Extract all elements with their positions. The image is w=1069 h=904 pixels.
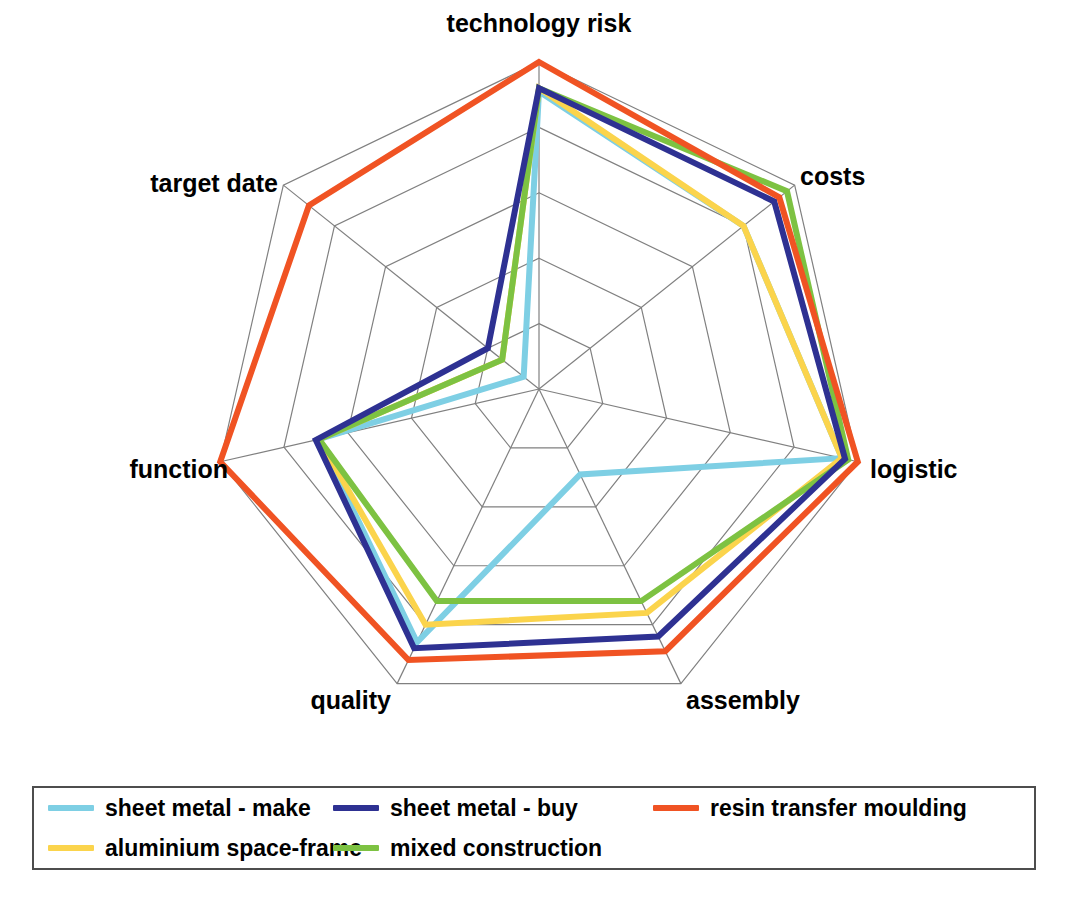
axis-label-function: function xyxy=(129,455,228,483)
legend-color-swatch xyxy=(333,805,379,811)
legend-item-aluminium-space-frame[interactable]: aluminium space-frame xyxy=(48,828,333,868)
radar-chart-page: technology riskcostslogisticassemblyqual… xyxy=(0,0,1069,904)
legend-item-mixed-construction[interactable]: mixed construction xyxy=(333,828,653,868)
radar-chart-svg: technology riskcostslogisticassemblyqual… xyxy=(0,0,1069,760)
radar-axis-spoke xyxy=(539,185,795,389)
legend-label: aluminium space-frame xyxy=(105,837,362,860)
radar-series-sheet-metal-buy xyxy=(316,88,845,648)
legend-color-swatch xyxy=(48,845,94,851)
legend-color-swatch xyxy=(653,805,699,811)
legend-item-resin-transfer-moulding[interactable]: resin transfer moulding xyxy=(653,788,967,828)
legend-color-swatch xyxy=(48,805,94,811)
legend-label: sheet metal - make xyxy=(105,797,311,820)
radar-series-sheet-metal-make xyxy=(319,91,842,642)
axis-label-target-date: target date xyxy=(150,169,278,197)
chart-legend: sheet metal - makesheet metal - buyresin… xyxy=(32,786,1036,870)
legend-label: resin transfer moulding xyxy=(710,797,967,820)
axis-label-costs: costs xyxy=(800,162,865,190)
axis-label-logistic: logistic xyxy=(870,455,958,483)
axis-label-technology-risk: technology risk xyxy=(447,9,632,37)
legend-row: aluminium space-framemixed construction xyxy=(34,828,1034,868)
radar-axis-spoke xyxy=(220,389,539,462)
legend-row: sheet metal - makesheet metal - buyresin… xyxy=(34,788,1034,828)
axis-label-quality: quality xyxy=(310,686,391,714)
legend-item-sheet-metal-buy[interactable]: sheet metal - buy xyxy=(333,788,653,828)
legend-label: mixed construction xyxy=(390,837,602,860)
legend-item-sheet-metal-make[interactable]: sheet metal - make xyxy=(48,788,333,828)
radar-spokes xyxy=(220,62,858,684)
axis-label-assembly: assembly xyxy=(686,686,800,714)
radar-axis-spoke xyxy=(539,389,858,462)
legend-color-swatch xyxy=(333,845,379,851)
legend-label: sheet metal - buy xyxy=(390,797,578,820)
radar-chart-area: technology riskcostslogisticassemblyqual… xyxy=(0,0,1069,760)
